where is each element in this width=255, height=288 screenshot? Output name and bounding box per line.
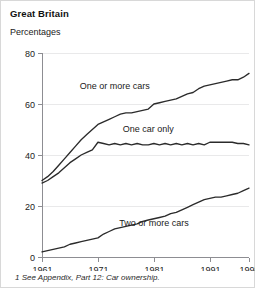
page-title: Great Britain [10, 8, 250, 20]
x-tick-label-1961: 1961 [32, 265, 52, 272]
y-axis-ticks: 020406080 [25, 49, 42, 263]
units-label: Percentages [10, 26, 250, 38]
line-chart: 020406080 19611971198119911998 One or mo… [1, 43, 255, 271]
series-label-2: Two or more cars [119, 218, 189, 228]
y-tick-label-80: 80 [25, 49, 35, 59]
plot-area: 020406080 19611971198119911998 One or mo… [1, 43, 255, 271]
x-axis-ticks: 19611971198119911998 [32, 258, 255, 272]
y-tick-label-0: 0 [30, 253, 35, 263]
x-tick-label-1998: 1998 [239, 265, 255, 272]
chart-header: Great Britain Percentages [10, 8, 250, 38]
x-tick-label-1981: 1981 [144, 265, 164, 272]
y-tick-label-60: 60 [25, 100, 35, 110]
y-tick-label-20: 20 [25, 202, 35, 212]
series-label-1: One car only [123, 124, 175, 134]
chart-figure: Great Britain Percentages 020406080 1961… [0, 0, 255, 288]
footnote-text: 1 See Appendix, Part 12: Car ownership. [15, 273, 160, 282]
y-tick-label-40: 40 [25, 151, 35, 161]
series-label-0: One or more cars [80, 81, 151, 91]
x-tick-label-1991: 1991 [200, 265, 220, 272]
x-tick-label-1971: 1971 [88, 265, 108, 272]
